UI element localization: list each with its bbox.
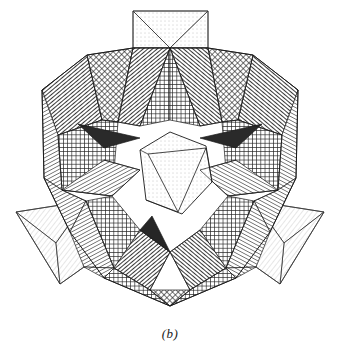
polyhedron-diagram bbox=[0, 0, 340, 360]
top-spike-group bbox=[133, 11, 208, 48]
figure-caption: (b) bbox=[0, 326, 340, 342]
figure-container: (b) bbox=[0, 0, 340, 360]
polyhedron-faces bbox=[16, 11, 324, 306]
core-group bbox=[140, 132, 212, 214]
